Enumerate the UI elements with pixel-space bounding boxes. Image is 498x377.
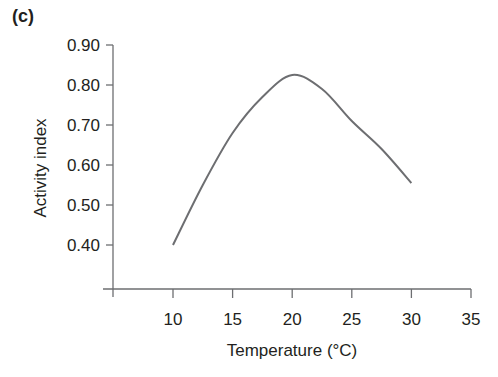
line-chart: 0.400.500.600.700.800.90 101520253035 Ac… xyxy=(0,0,498,377)
series-line xyxy=(173,75,411,245)
x-tick-label: 25 xyxy=(342,310,361,329)
y-axis-ticks: 0.400.500.600.700.800.90 xyxy=(67,36,113,255)
x-tick-label: 20 xyxy=(283,310,302,329)
x-tick-label: 35 xyxy=(462,310,481,329)
x-axis-title: Temperature (°C) xyxy=(227,341,358,360)
y-tick-label: 0.80 xyxy=(67,76,100,95)
y-tick-label: 0.40 xyxy=(67,236,100,255)
x-tick-label: 10 xyxy=(164,310,183,329)
x-tick-label: 15 xyxy=(223,310,242,329)
data-series xyxy=(173,75,411,245)
y-tick-label: 0.50 xyxy=(67,196,100,215)
x-axis-ticks: 101520253035 xyxy=(164,289,481,329)
x-tick-label: 30 xyxy=(402,310,421,329)
y-tick-label: 0.60 xyxy=(67,156,100,175)
axes xyxy=(103,45,471,297)
y-axis-title: Activity index xyxy=(31,118,50,218)
y-tick-label: 0.90 xyxy=(67,36,100,55)
y-tick-label: 0.70 xyxy=(67,116,100,135)
